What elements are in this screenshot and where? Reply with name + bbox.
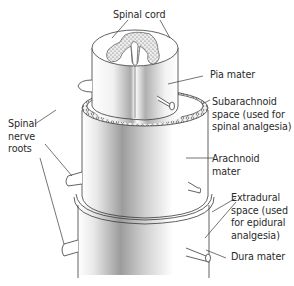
label-arachnoid-mater: Arachnoid mater xyxy=(212,153,260,178)
label-extradural-space: Extradural space (used for epidural anal… xyxy=(231,192,288,242)
label-spinal-cord: Spinal cord xyxy=(113,9,165,22)
label-pia-mater: Pia mater xyxy=(210,69,255,82)
label-subarachnoid-space: Subarachnoid space (used for spinal anal… xyxy=(212,96,292,134)
spinal-anatomy-illustration xyxy=(0,0,294,286)
label-dura-mater: Dura mater xyxy=(231,251,285,264)
spinal-cord xyxy=(92,30,182,124)
label-spinal-nerve-roots: Spinal nerve roots xyxy=(8,118,37,156)
